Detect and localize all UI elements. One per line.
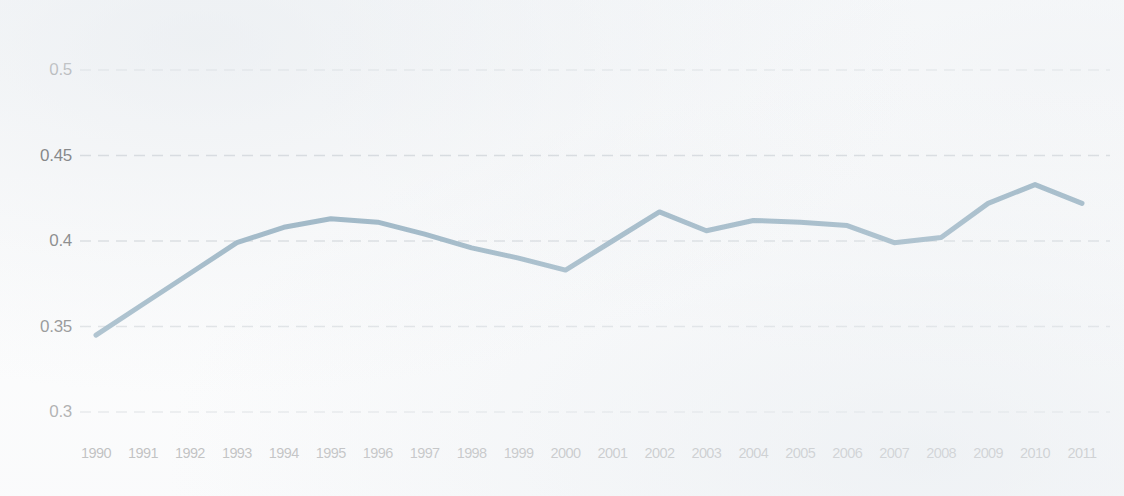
y-axis-label-0.4: 0.4 bbox=[0, 231, 72, 251]
y-axis-label-0.45: 0.45 bbox=[0, 146, 72, 166]
x-axis-label-2000: 2000 bbox=[551, 445, 581, 461]
plot-area: 0.30.350.40.450.5 1990199119921993199419… bbox=[0, 0, 1124, 496]
x-axis-label-1997: 1997 bbox=[410, 445, 440, 461]
x-axis-label-2007: 2007 bbox=[879, 445, 909, 461]
x-axis-label-1993: 1993 bbox=[222, 445, 252, 461]
x-axis-label-1992: 1992 bbox=[175, 445, 205, 461]
x-axis-label-1991: 1991 bbox=[128, 445, 158, 461]
data-series-layer bbox=[0, 0, 1124, 496]
x-axis-label-2004: 2004 bbox=[738, 445, 768, 461]
x-axis-label-2003: 2003 bbox=[691, 445, 721, 461]
x-axis-label-1996: 1996 bbox=[363, 445, 393, 461]
x-axis-label-1990: 1990 bbox=[81, 445, 111, 461]
series-line bbox=[96, 185, 1082, 335]
x-axis-label-2010: 2010 bbox=[1020, 445, 1050, 461]
x-axis-label-2011: 2011 bbox=[1068, 445, 1097, 461]
x-axis-label-2008: 2008 bbox=[926, 445, 956, 461]
x-axis-label-1995: 1995 bbox=[316, 445, 346, 461]
x-axis-label-1998: 1998 bbox=[457, 445, 487, 461]
y-axis-label-0.35: 0.35 bbox=[0, 317, 72, 337]
x-axis-label-1994: 1994 bbox=[269, 445, 299, 461]
x-axis-label-2009: 2009 bbox=[973, 445, 1003, 461]
x-axis-label-2002: 2002 bbox=[644, 445, 674, 461]
x-axis-label-2006: 2006 bbox=[832, 445, 862, 461]
x-axis-label-2005: 2005 bbox=[785, 445, 815, 461]
y-axis-label-0.3: 0.3 bbox=[0, 402, 72, 422]
x-axis-label-1999: 1999 bbox=[504, 445, 534, 461]
y-axis-label-0.5: 0.5 bbox=[0, 60, 72, 80]
x-axis-label-2001: 2001 bbox=[598, 445, 628, 461]
line-chart: 0.30.350.40.450.5 1990199119921993199419… bbox=[0, 0, 1124, 496]
